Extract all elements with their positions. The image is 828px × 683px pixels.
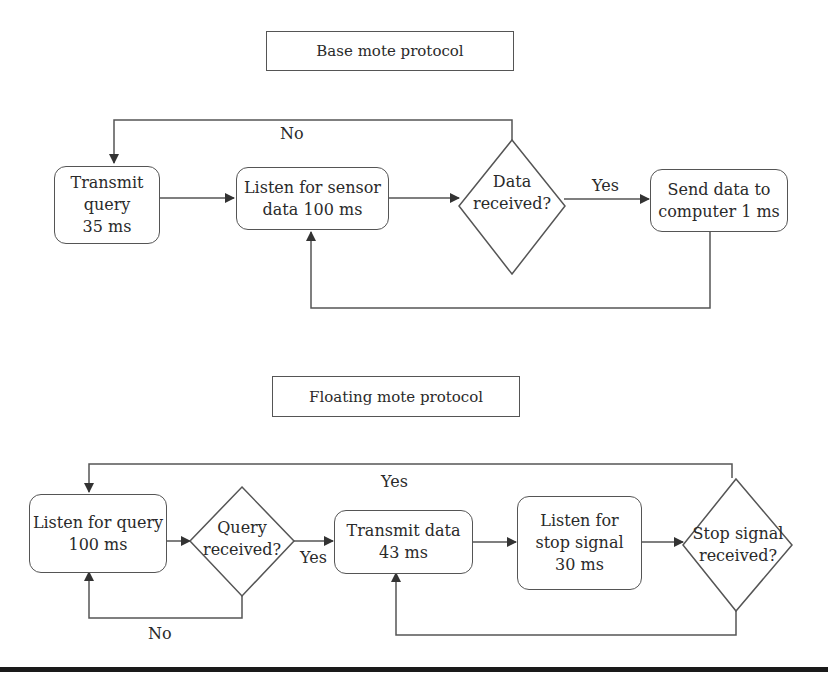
bottom-rule (0, 667, 828, 672)
transmit-query-box: Transmit query 35 ms (54, 166, 160, 244)
box-text: 100 ms (33, 534, 163, 556)
box-text: 35 ms (70, 216, 143, 238)
query-yes-label: Yes (300, 548, 327, 567)
connector-lines (0, 0, 828, 683)
diamond-text: received? (473, 193, 551, 215)
floating-protocol-title: Floating mote protocol (272, 376, 520, 417)
box-text: 43 ms (347, 542, 461, 564)
box-text: Send data to (658, 179, 780, 201)
box-text: Transmit data (347, 520, 461, 542)
box-text: query (70, 194, 143, 216)
send-data-computer-box: Send data to computer 1 ms (650, 169, 788, 232)
data-received-label: Data received? (459, 170, 565, 216)
box-text: data 100 ms (244, 199, 381, 221)
floating-yes-top-label: Yes (381, 472, 408, 491)
box-text: Listen for (535, 510, 623, 532)
diamond-text: received? (203, 539, 281, 561)
box-text: 30 ms (535, 554, 623, 576)
box-text: Transmit (70, 172, 143, 194)
query-received-label: Query received? (190, 516, 294, 562)
transmit-data-box: Transmit data 43 ms (334, 510, 473, 574)
box-text: computer 1 ms (658, 201, 780, 223)
query-no-label: No (148, 624, 172, 643)
listen-sensor-data-box: Listen for sensor data 100 ms (236, 167, 389, 230)
diamond-text: Stop signal (693, 523, 784, 545)
diamond-text: received? (693, 545, 784, 567)
box-text: Listen for sensor (244, 177, 381, 199)
listen-for-query-box: Listen for query 100 ms (29, 494, 167, 573)
stop-signal-received-label: Stop signal received? (683, 522, 793, 568)
base-yes-label: Yes (592, 176, 619, 195)
diamond-text: Data (473, 171, 551, 193)
box-text: stop signal (535, 532, 623, 554)
listen-stop-signal-box: Listen for stop signal 30 ms (517, 496, 642, 590)
base-protocol-title: Base mote protocol (266, 31, 514, 71)
base-no-label: No (280, 124, 304, 143)
box-text: Listen for query (33, 512, 163, 534)
diamond-text: Query (203, 517, 281, 539)
